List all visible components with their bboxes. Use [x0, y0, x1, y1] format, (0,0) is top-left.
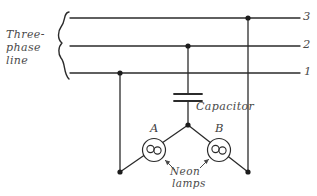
circuit-schematic	[0, 0, 317, 196]
label-neon-lamps-line-2: lamps	[170, 177, 206, 189]
label-three-phase-line-3: line	[6, 55, 45, 68]
three-phase-brace	[59, 12, 70, 79]
junction-dot-tap-line-3	[245, 15, 250, 20]
junction-dot-tap-line-1	[117, 70, 122, 75]
label-terminal-3: 3	[303, 10, 311, 24]
junction-dot-lamp-a-return	[117, 169, 122, 174]
three-phase-bus	[70, 18, 300, 73]
diagram-canvas: Three- phase line 3 2 1 Capacitor A B Ne…	[0, 0, 317, 196]
junction-dot-tap-line-2	[185, 43, 190, 48]
junction-dot-lamp-b-return	[245, 169, 250, 174]
junction-dot-star-node	[185, 122, 190, 127]
label-lamp-b: B	[215, 122, 224, 136]
neon-lamp-a-symbol	[143, 139, 166, 162]
label-terminal-2: 2	[303, 38, 311, 52]
label-capacitor: Capacitor	[196, 101, 254, 114]
label-three-phase-line-2: phase	[6, 42, 45, 55]
label-neon-lamps-line-1: Neon	[170, 165, 206, 177]
label-neon-lamps: Neon lamps	[170, 165, 206, 190]
label-terminal-1: 1	[304, 65, 312, 79]
label-three-phase-line: Three- phase line	[6, 29, 45, 68]
neon-lamp-b-symbol	[208, 139, 231, 162]
label-lamp-a: A	[150, 122, 159, 136]
